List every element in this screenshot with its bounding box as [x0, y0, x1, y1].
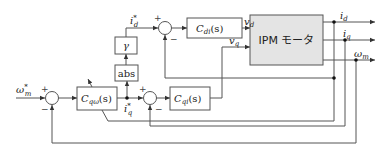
sign-sumw-minus: − [41, 104, 49, 114]
label-id-ref: i*d [130, 14, 139, 29]
sign-sumq-plus: + [139, 84, 147, 94]
wire-vq [210, 47, 250, 98]
sign-sumd-minus: − [170, 34, 178, 44]
label-id: id [340, 10, 348, 23]
sign-sumd-plus: + [154, 13, 162, 23]
svg-text:γ: γ [123, 40, 129, 51]
block-abs: abs [115, 65, 138, 81]
junction-iq-ref [125, 96, 129, 100]
label-iq-ref: i*q [124, 102, 133, 117]
sum-d [159, 22, 172, 35]
svg-text:abs: abs [118, 68, 136, 79]
adjust-arrow [88, 79, 92, 87]
label-omega-ref: ω*m [16, 83, 32, 98]
wire-gamma-sumd [126, 28, 158, 37]
svg-text:IPM モータ: IPM モータ [259, 34, 315, 47]
block-gamma: γ [115, 37, 137, 54]
sign-sumw-plus: + [41, 84, 49, 94]
block-c-qi: Cqi(s) [170, 87, 210, 110]
block-ipm-motor: IPM モータ [250, 15, 323, 65]
junction-id-split [332, 76, 336, 80]
block-c-qomega: Cqω(s) [77, 87, 117, 110]
sign-sumq-minus: − [155, 104, 163, 114]
wire-id-feedback-cqw [102, 78, 334, 121]
control-block-diagram: + − + − + − γ abs Cdi(s) Cqω(s) Cqi(s) I… [0, 0, 388, 153]
junction-id-out [332, 20, 336, 24]
